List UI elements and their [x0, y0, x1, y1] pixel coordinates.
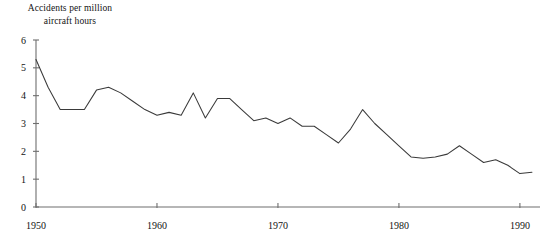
chart-plot-area: 0123456 19501960197019801990 [0, 0, 543, 242]
x-axis: 19501960197019801990 [26, 203, 540, 231]
y-axis-tick-label: 5 [21, 62, 26, 73]
x-axis-tick-label: 1990 [510, 220, 530, 231]
y-axis-tick-label: 4 [21, 90, 26, 101]
x-axis-tick-label: 1950 [26, 220, 46, 231]
y-axis-tick-label: 3 [21, 118, 26, 129]
y-axis-tick-label: 0 [21, 202, 26, 213]
x-axis-tick-label: 1960 [147, 220, 167, 231]
x-axis-tick-label: 1980 [389, 220, 409, 231]
x-axis-tick-label: 1970 [268, 220, 288, 231]
y-axis-tick-label: 1 [21, 174, 26, 185]
y-axis-tick-label: 2 [21, 146, 26, 157]
data-series-line [36, 59, 532, 173]
y-axis-tick-label: 6 [21, 35, 26, 46]
accidents-line-chart: Accidents per million aircraft hours 012… [0, 0, 543, 242]
